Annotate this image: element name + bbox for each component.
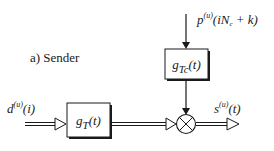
spreading-code-superscript: (u) bbox=[204, 11, 213, 20]
chip-to-multiplier-arrow bbox=[182, 81, 190, 115]
input-signal-label: d(u)(i) bbox=[7, 101, 35, 115]
spreading-code-argument: (iN bbox=[213, 12, 230, 27]
spreading-code-argument-tail: + k) bbox=[233, 12, 258, 27]
chip-filter-subscript: Tc bbox=[179, 63, 189, 75]
transmit-filter-label: gT(t) bbox=[67, 114, 110, 130]
input-signal-argument: (i) bbox=[23, 101, 35, 116]
input-signal-superscript: (u) bbox=[14, 100, 23, 109]
filter-to-multiplier-double-arrow bbox=[111, 118, 176, 130]
output-signal-superscript: (u) bbox=[219, 100, 228, 109]
chip-filter-label: gTc(t) bbox=[165, 58, 208, 74]
spreading-input-arrow bbox=[182, 14, 190, 49]
input-double-arrow bbox=[25, 118, 66, 130]
spreading-code-label: p(u)(iNc + k) bbox=[197, 12, 258, 28]
multiplier-icon bbox=[177, 115, 196, 134]
output-signal-label: s(u)(t) bbox=[214, 101, 241, 115]
diagram-title: a) Sender bbox=[30, 51, 79, 64]
output-double-arrow bbox=[196, 118, 239, 130]
transmit-filter-argument: (t) bbox=[89, 113, 101, 128]
output-signal-argument: (t) bbox=[228, 101, 240, 116]
chip-filter-argument: (t) bbox=[189, 57, 201, 72]
